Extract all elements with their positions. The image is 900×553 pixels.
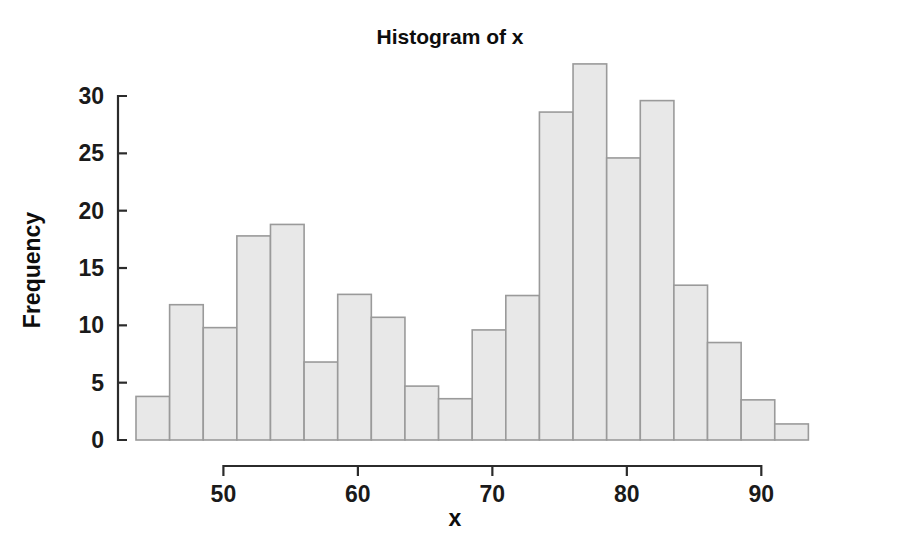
- histogram-bar: [472, 330, 506, 440]
- histogram-bar: [371, 317, 405, 440]
- histogram-bar: [674, 285, 708, 440]
- y-axis-tick-label: 15: [78, 255, 104, 281]
- histogram-canvas: Histogram of x 051015202530 5060708090 F…: [0, 0, 900, 553]
- histogram-bar: [304, 362, 338, 440]
- histogram-bar: [741, 400, 775, 440]
- x-axis-label: x: [449, 505, 462, 531]
- histogram-bar: [203, 328, 237, 440]
- histogram-bar: [539, 112, 573, 440]
- histogram-bar: [338, 294, 372, 440]
- histogram-bar: [237, 236, 271, 440]
- histogram-bar: [506, 296, 540, 440]
- x-axis-tick-label: 80: [614, 481, 640, 507]
- histogram-bar: [405, 386, 439, 440]
- y-axis-label: Frequency: [19, 212, 45, 329]
- x-axis-tick-label: 90: [749, 481, 775, 507]
- histogram-bar: [607, 158, 641, 440]
- x-axis-tick-label: 50: [211, 481, 237, 507]
- y-axis-tick-label: 20: [78, 198, 104, 224]
- histogram-bar: [270, 224, 304, 440]
- y-axis-tick-label: 30: [78, 83, 104, 109]
- y-axis-tick-label: 10: [78, 312, 104, 338]
- x-axis-tick-label: 60: [345, 481, 371, 507]
- histogram-plot-panel: Histogram of x 051015202530 5060708090 F…: [0, 0, 900, 553]
- x-axis-tick-label: 70: [480, 481, 506, 507]
- plot-background: [0, 0, 900, 553]
- y-axis-tick-label: 0: [91, 427, 104, 453]
- histogram-bar: [573, 64, 607, 440]
- histogram-bar: [439, 399, 473, 440]
- y-axis-tick-label: 5: [91, 370, 104, 396]
- histogram-bar: [136, 396, 170, 440]
- histogram-bar: [775, 424, 809, 440]
- histogram-bar: [708, 343, 742, 440]
- histogram-bar: [170, 305, 204, 440]
- histogram-bar: [640, 101, 674, 440]
- page-title: Histogram of x: [376, 25, 523, 48]
- y-axis-tick-label: 25: [78, 140, 104, 166]
